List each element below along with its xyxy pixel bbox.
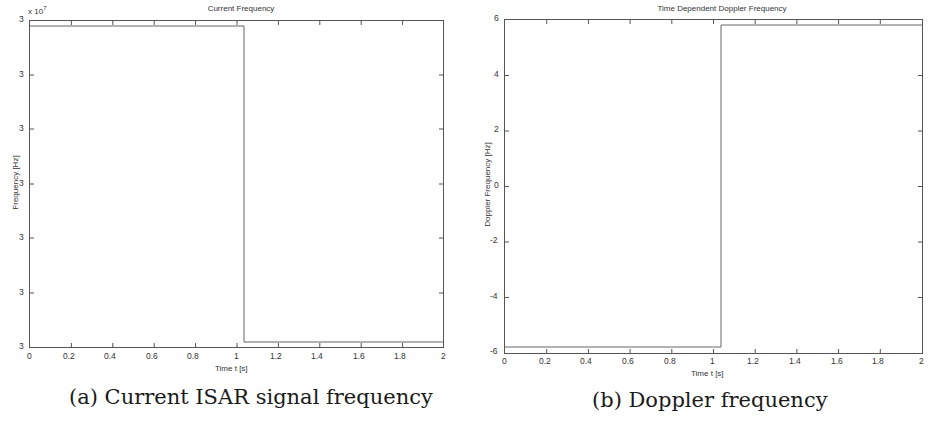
figure-a: x 107 Current Frequency 3 3 3 3 3 3 3 0 … [0,0,467,435]
doppler-line [505,20,924,355]
caption-b: (b) Doppler frequency [592,388,828,412]
chart-title: Current Frequency [196,4,286,13]
frequency-line [30,21,445,349]
x-axis-label: Time t [s] [691,369,724,378]
y-exponent: x 107 [28,5,46,16]
plot-area [29,20,444,348]
plot-area [504,19,923,354]
y-axis-label: Doppler Frequency [Hz] [483,130,492,240]
figure-b: Time Dependent Doppler Frequency 6 4 2 0… [467,0,934,435]
chart-title: Time Dependent Doppler Frequency [642,4,802,13]
y-axis-label: Frequency [Hz] [11,148,20,218]
x-axis-label: Time t [s] [215,364,248,373]
caption-a: (a) Current ISAR signal frequency [69,385,433,409]
